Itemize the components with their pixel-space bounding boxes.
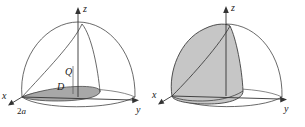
z-axis-label: z — [82, 3, 87, 14]
x-axis-line — [162, 96, 172, 102]
x-intercept-label: 2a — [17, 106, 27, 116]
region-D-label: D — [56, 81, 65, 92]
z-axis-arrowhead — [223, 6, 229, 13]
x-axis-line — [12, 97, 22, 103]
figure-right-solid: z y x — [150, 0, 305, 127]
z-axis-label: z — [230, 2, 235, 13]
diagram-page: z y x Q D 2a — [0, 0, 305, 127]
y-axis-label: y — [283, 103, 289, 114]
y-axis-arrowhead — [280, 97, 287, 103]
figure-left-region-and-hemisphere: z y x Q D 2a — [0, 0, 152, 127]
y-axis-arrowhead — [132, 98, 139, 104]
y-axis-label: y — [135, 104, 141, 115]
z-axis-arrowhead — [75, 7, 81, 14]
cylinder-trace-right — [82, 24, 100, 92]
x-axis-label: x — [151, 89, 157, 100]
point-Q-label: Q — [65, 66, 73, 77]
x-axis-label: x — [1, 90, 7, 101]
shaded-solid — [171, 24, 243, 104]
